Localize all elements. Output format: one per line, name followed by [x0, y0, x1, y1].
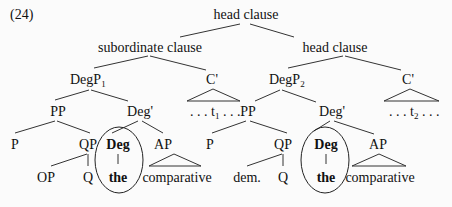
syntax-tree-diagram: (24) head clause subordinate clause head…: [0, 0, 452, 207]
node-comparative-right: comparative: [345, 170, 414, 185]
node-op: OP: [37, 170, 55, 185]
node-qp-right: QP: [274, 137, 292, 152]
edge-degbar-ap-right: [334, 121, 374, 134]
node-head-clause: head clause: [303, 40, 368, 55]
edge-head-cbar: [345, 56, 401, 70]
edge-degp1-degbar: [91, 90, 128, 101]
node-degp2: DegP2: [269, 72, 305, 89]
edge-pp-qp-right: [250, 121, 287, 133]
node-comparative-left: comparative: [142, 170, 211, 185]
example-number: (24): [10, 7, 34, 23]
node-degbar-right: Deg': [319, 104, 345, 119]
edge-qp-dem: [247, 154, 282, 166]
node-cbar-right: C': [402, 72, 414, 87]
node-q-left: Q: [83, 170, 93, 185]
edge-degp2-degbar: [282, 90, 316, 102]
node-degp1: DegP1: [70, 72, 106, 89]
node-p-left: P: [11, 137, 19, 152]
edge-head-degp2: [288, 56, 343, 68]
edge-pp-qp-left: [57, 121, 90, 133]
root-node-head-clause: head clause: [214, 7, 279, 22]
node-dem: dem.: [233, 170, 261, 185]
triangle-ap-left: [149, 154, 201, 166]
edge-degp2-pp: [255, 90, 280, 101]
edge-pp-p-right: [212, 121, 246, 133]
trace-2: . . . t2 . . .: [389, 104, 439, 121]
edge-degp1-pp: [55, 90, 89, 100]
node-subordinate-clause: subordinate clause: [98, 40, 202, 55]
node-ap-right: AP: [369, 137, 387, 152]
node-cbar-left: C': [206, 72, 218, 87]
triangle-ap-right: [352, 154, 406, 166]
node-deg-left: Deg: [106, 137, 129, 152]
node-pp-right: PP: [240, 104, 256, 119]
node-qp-left: QP: [79, 137, 97, 152]
node-p-right: P: [206, 137, 214, 152]
triangle-cbar-left: [187, 89, 240, 101]
edge-subordinate-degp1: [94, 56, 148, 68]
edge-subordinate-cbar: [150, 56, 206, 70]
node-degbar-left: Deg': [127, 104, 153, 119]
triangle-cbar-right: [384, 89, 439, 101]
node-deg-right: Deg: [314, 137, 337, 152]
node-q-right: Q: [278, 170, 288, 185]
node-ap-left: AP: [154, 137, 172, 152]
edge-root-headclause: [250, 24, 294, 37]
edge-pp-p-left: [15, 121, 55, 133]
edge-root-subordinate: [180, 24, 240, 37]
node-the-left: the: [109, 170, 128, 185]
node-pp-left: PP: [50, 104, 66, 119]
edge-degbar-ap-left: [142, 121, 163, 133]
edge-qp-op: [51, 154, 87, 166]
trace-1: . . . t1 . . .: [190, 104, 240, 121]
node-the-right: the: [317, 170, 336, 185]
